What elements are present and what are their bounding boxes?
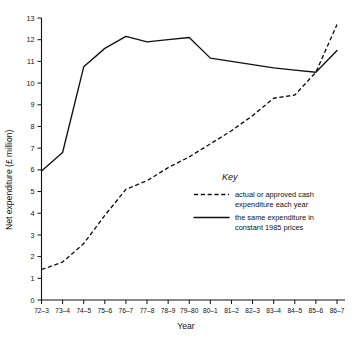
y-axis-title: Net expenditure (£ million)	[4, 130, 14, 230]
y-tick-label-1: 1	[31, 274, 35, 283]
chart-figure: 012345678910111213 72–373–474–575–676–77…	[0, 0, 354, 339]
x-tick-label-80–1: 80–1	[203, 307, 218, 314]
y-tick-label-5: 5	[31, 187, 35, 196]
x-tick-label-77–8: 77–8	[140, 307, 155, 314]
y-tick-label-13: 13	[27, 14, 35, 23]
x-tick-label-83–4: 83–4	[266, 307, 281, 314]
series-actual-cash-expenditure	[42, 25, 338, 270]
y-tick-label-3: 3	[31, 231, 35, 240]
x-tick-label-75–6: 75–6	[97, 307, 112, 314]
x-tick-label-72–3: 72–3	[34, 307, 49, 314]
legend-entry-0-line2: expenditure each year	[235, 200, 309, 209]
legend-title: Key	[222, 172, 238, 182]
legend-entry-0-line1: actual or approved cash	[235, 190, 314, 199]
y-tick-label-11: 11	[27, 57, 34, 66]
series-constant-1985-prices	[42, 36, 338, 170]
x-tick-label-79–80: 79–80	[180, 307, 199, 314]
x-tick-label-76–7: 76–7	[119, 307, 134, 314]
y-tick-label-0: 0	[31, 296, 35, 305]
x-tick-label-82–3: 82–3	[245, 307, 260, 314]
y-tick-label-12: 12	[27, 35, 35, 44]
x-tick-label-78–9: 78–9	[161, 307, 176, 314]
line-chart: 012345678910111213 72–373–474–575–676–77…	[0, 0, 354, 339]
y-tick-label-10: 10	[27, 79, 35, 88]
y-tick-label-2: 2	[31, 252, 35, 261]
x-axis-title: Year	[177, 321, 195, 331]
x-tick-label-73–4: 73–4	[55, 307, 70, 314]
y-tick-label-9: 9	[31, 100, 35, 109]
x-tick-label-84–5: 84–5	[287, 307, 302, 314]
y-axis-ticks	[38, 18, 42, 300]
x-tick-label-86–7: 86–7	[330, 307, 345, 314]
y-tick-label-8: 8	[31, 122, 35, 131]
x-axis-tick-labels: 72–373–474–575–676–777–878–979–8080–181–…	[34, 307, 345, 314]
y-tick-label-4: 4	[31, 209, 35, 218]
y-axis-tick-labels: 012345678910111213	[27, 14, 35, 305]
legend-entry-1-line2: constant 1985 prices	[235, 223, 304, 232]
y-tick-label-6: 6	[31, 165, 35, 174]
x-tick-label-85–6: 85–6	[309, 307, 324, 314]
legend: Key actual or approved cash expenditure …	[194, 172, 314, 232]
x-axis-ticks	[42, 300, 338, 304]
y-tick-label-7: 7	[31, 144, 35, 153]
x-tick-label-74–5: 74–5	[76, 307, 91, 314]
x-tick-label-81–2: 81–2	[224, 307, 239, 314]
legend-entry-1-line1: the same expenditure in	[235, 213, 314, 222]
